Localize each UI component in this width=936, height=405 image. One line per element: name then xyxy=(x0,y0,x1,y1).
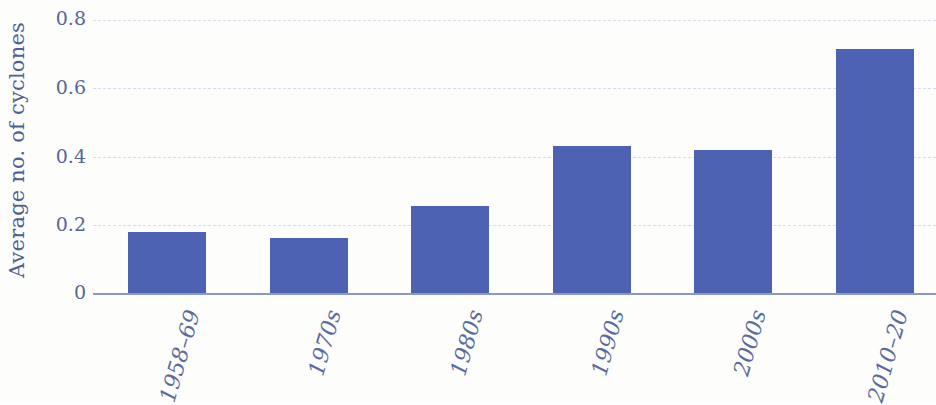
x-axis-tick-labels: 1958–69 1970s 1980s 1990s 2000s 2010–20 xyxy=(0,293,936,402)
bar-1990s[interactable] xyxy=(553,146,631,293)
x-tick-label-1990s-text: 1990s xyxy=(586,307,629,379)
x-tick-label-2010-20-text: 2010–20 xyxy=(863,307,913,405)
x-tick-label-1970s-text: 1970s xyxy=(303,307,346,379)
bar-1980s[interactable] xyxy=(411,206,489,293)
bar-1958-69[interactable] xyxy=(128,232,206,293)
x-tick-label-1980s-text: 1980s xyxy=(445,307,488,379)
x-tick-label-1958-69-text: 1958–69 xyxy=(155,307,205,405)
bar-1970s[interactable] xyxy=(270,238,348,293)
plot-area: 0.8 0.6 0.4 0.2 0 xyxy=(0,0,936,300)
bar-2000s[interactable] xyxy=(694,150,772,293)
bar-2010-20[interactable] xyxy=(836,49,914,293)
x-tick-label-2000s-text: 2000s xyxy=(728,307,771,379)
bars-layer xyxy=(0,0,936,293)
